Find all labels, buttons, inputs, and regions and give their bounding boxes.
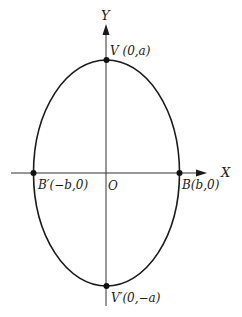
origin-label: O [108,180,118,192]
x-axis-arrow-icon [196,170,207,177]
y-axis-label: Y [101,9,110,22]
point-b-prime [31,170,37,176]
point-b [177,170,183,176]
ellipse-diagram: Y X O V (0,a) V′(0,−a) B(b,0) B′(−b,0) [0,0,242,317]
point-v-prime [104,283,110,289]
point-v-label: V (0,a) [110,45,150,57]
y-axis-arrow-icon [103,24,110,35]
point-b-prime-label: B′(−b,0) [38,179,88,191]
point-v-prime-label: V′(0,−a) [111,292,160,304]
point-v [104,57,110,63]
x-axis-label: X [221,166,230,179]
point-b-label: B(b,0) [182,179,219,191]
